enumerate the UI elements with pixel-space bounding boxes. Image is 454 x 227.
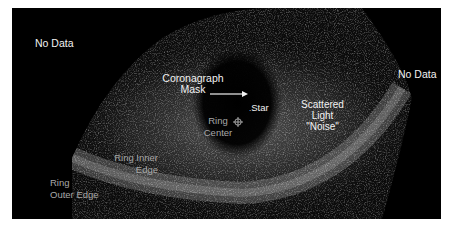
arrow-right-icon [202,90,248,98]
ring-outer-edge-label: Ring Outer Edge [50,178,99,200]
no-data-right-label: No Data [398,69,437,79]
ring-inner-edge-label: Ring Inner Edge [98,153,158,175]
crosshair-icon [233,117,243,127]
astronomy-image-panel: No Data No Data Coronagraph Mask .Star R… [12,8,441,219]
star-label: .Star [249,103,269,114]
ring-center-label: Ring Center [198,116,238,138]
scattered-light-noise-label: Scattered Light "Noise" [295,100,350,132]
no-data-left-label: No Data [35,38,74,48]
